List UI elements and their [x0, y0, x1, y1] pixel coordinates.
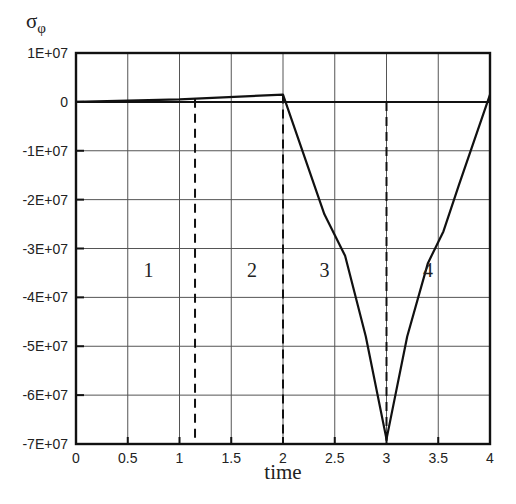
y-tick-label: -1E+07: [22, 143, 68, 159]
y-tick-label: -6E+07: [22, 387, 68, 403]
x-tick-label: 3: [383, 450, 391, 466]
x-tick-label: 0: [72, 450, 80, 466]
phase-label: 3: [319, 259, 329, 281]
y-tick-label: -5E+07: [22, 338, 68, 354]
x-axis-label: time: [264, 460, 301, 484]
y-tick-label: 0: [60, 94, 68, 110]
y-axis-label: σφ: [26, 9, 46, 36]
y-tick-label: -3E+07: [22, 241, 68, 257]
x-tick-label: 0.5: [118, 450, 138, 466]
y-tick-label: -7E+07: [22, 436, 68, 452]
x-tick-label: 3.5: [429, 450, 449, 466]
x-tick-label: 2.5: [325, 450, 345, 466]
x-tick-label: 4: [486, 450, 494, 466]
phase-dividers: [195, 95, 386, 444]
phase-label: 4: [423, 259, 433, 281]
x-tick-label: 1.5: [222, 450, 242, 466]
y-tick-label: 1E+07: [27, 45, 68, 61]
phase-labels: 1234: [143, 259, 432, 281]
phase-label: 1: [143, 259, 153, 281]
y-tick-label: -2E+07: [22, 192, 68, 208]
x-tick-label: 1: [176, 450, 184, 466]
y-tick-label: -4E+07: [22, 289, 68, 305]
phase-label: 2: [247, 259, 257, 281]
y-tick-labels: 1E+070-1E+07-2E+07-3E+07-4E+07-5E+07-6E+…: [22, 45, 68, 452]
stress-time-chart: 1E+070-1E+07-2E+07-3E+07-4E+07-5E+07-6E+…: [0, 0, 516, 504]
